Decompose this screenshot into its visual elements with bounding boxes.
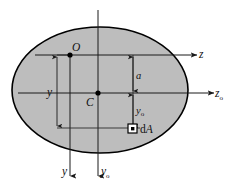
ellipse-cross-section <box>12 27 188 153</box>
da-square-inner <box>131 127 134 130</box>
da-label-a: A <box>145 123 154 135</box>
dim-yo-label-sub: o <box>141 110 145 118</box>
point-o-marker <box>67 52 72 57</box>
z-axis-label: z <box>198 48 204 60</box>
dim-y-label: y <box>46 86 53 99</box>
figure-canvas: O C z zo y yo y a yo dA <box>0 0 236 185</box>
y-axis-label: y <box>61 165 68 178</box>
zo-axis-label: zo <box>214 87 223 102</box>
point-o-label: O <box>72 41 81 53</box>
dim-a-label: a <box>136 70 141 81</box>
diagram-svg: O C z zo y yo y a yo dA <box>0 0 236 185</box>
point-c-marker <box>95 90 100 95</box>
da-label: dA <box>140 123 154 135</box>
point-c-label: C <box>86 96 94 108</box>
zo-axis-label-sub: o <box>219 94 223 102</box>
yo-axis-label: yo <box>100 165 110 180</box>
yo-axis-label-sub: o <box>106 172 110 180</box>
